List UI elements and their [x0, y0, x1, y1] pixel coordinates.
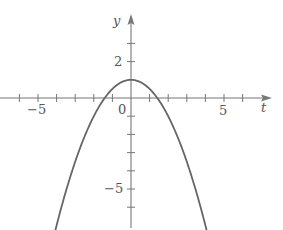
origin-label: 0 — [118, 102, 126, 117]
x-axis-label: t — [261, 100, 267, 115]
y-tick-label-neg5: −5 — [104, 181, 123, 196]
parabola-chart: y t 0 −5 5 2 −5 — [0, 0, 283, 230]
axes — [0, 14, 272, 228]
x-tick-label-5: 5 — [219, 103, 227, 118]
y-axis-label: y — [112, 13, 121, 28]
x-tick-label-neg5: −5 — [27, 102, 46, 117]
y-tick-label-2: 2 — [114, 54, 122, 69]
